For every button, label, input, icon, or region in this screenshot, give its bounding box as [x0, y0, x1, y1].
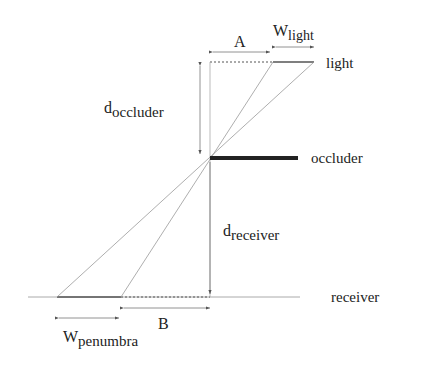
label-receiver: receiver [331, 289, 379, 305]
label-d-occluder: doccluder [104, 99, 164, 120]
label-a: A [234, 33, 246, 50]
penumbra-diagram: A Wlight light doccluder occluder drecei… [0, 0, 423, 369]
label-occluder: occluder [311, 150, 363, 166]
label-d-receiver: dreceiver [223, 222, 279, 243]
ray-inner [121, 62, 273, 297]
label-w-penumbra: Wpenumbra [63, 328, 138, 349]
ray-outer [57, 62, 314, 297]
label-w-light: Wlight [273, 22, 314, 43]
label-light: light [326, 55, 354, 71]
label-b: B [158, 315, 169, 332]
